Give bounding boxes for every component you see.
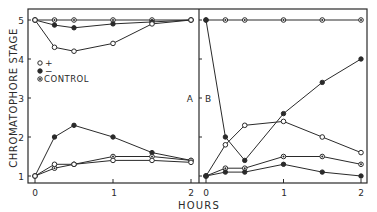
x-ticks-b: 0 1 2 (203, 188, 364, 198)
y-tick-5: 5 (18, 16, 24, 26)
filled-circle-marker-icon (223, 135, 227, 139)
open-circle-marker-icon (150, 22, 155, 27)
half-circle-dot-icon (112, 19, 114, 21)
filled-circle-marker-icon (281, 162, 285, 166)
half-circle-dot-icon (54, 167, 56, 169)
open-circle-marker-icon (223, 143, 228, 148)
legend-filled-circle-icon (38, 69, 42, 73)
y-ticks: 5 4 3 2 1 (18, 16, 24, 182)
open-circle-marker-icon (72, 49, 77, 54)
y-tick-2: 2 (18, 133, 24, 143)
half-circle-dot-icon (244, 19, 246, 21)
open-circle-marker-icon (189, 160, 194, 165)
filled-circle-marker-icon (320, 170, 324, 174)
chromatophore-stage-chart: CHROMATOPHORE STAGE 5 4 3 2 1 0 1 2 0 1 … (0, 0, 377, 212)
open-circle-marker-icon (320, 135, 325, 140)
x-tick-a-2: 2 (188, 188, 194, 198)
half-circle-dot-icon (321, 19, 323, 21)
filled-circle-marker-icon (111, 135, 115, 139)
filled-circle-marker-icon (52, 23, 56, 27)
open-circle-marker-icon (72, 162, 77, 167)
filled-circle-marker-icon (52, 135, 56, 139)
open-circle-marker-icon (111, 158, 116, 163)
filled-circle-marker-icon (243, 158, 247, 162)
legend-half-circle-dot-icon (39, 78, 41, 80)
filled-circle-marker-icon (223, 170, 227, 174)
open-circle-marker-icon (52, 45, 57, 50)
panel-label-a: A (187, 94, 194, 104)
open-circle-marker-icon (33, 174, 38, 179)
x-tick-b-0: 0 (203, 188, 209, 198)
x-tick-b-1: 1 (281, 188, 287, 198)
half-circle-dot-icon (112, 156, 114, 158)
half-circle-dot-icon (224, 19, 226, 21)
open-circle-marker-icon (150, 158, 155, 163)
half-circle-dot-icon (224, 167, 226, 169)
x-axis-label: HOURS (178, 200, 220, 211)
open-circle-marker-icon (189, 18, 194, 23)
filled-circle-marker-icon (359, 57, 363, 61)
legend-open-circle-icon (38, 61, 42, 65)
half-circle-dot-icon (151, 156, 153, 158)
open-circle-marker-icon (281, 119, 286, 124)
half-circle-dot-icon (360, 163, 362, 165)
filled-circle-marker-icon (72, 26, 76, 30)
x-ticks-a: 0 1 2 (32, 188, 194, 198)
filled-circle-marker-icon (72, 123, 76, 127)
x-tick-a-1: 1 (111, 188, 117, 198)
half-circle-dot-icon (283, 19, 285, 21)
filled-circle-marker-icon (111, 22, 115, 26)
filled-circle-marker-icon (204, 18, 208, 22)
series-line (206, 20, 361, 160)
x-tick-b-2: 2 (358, 188, 364, 198)
panel-label-b: B (205, 94, 211, 104)
y-tick-1: 1 (18, 172, 24, 182)
series-line (35, 125, 191, 176)
filled-circle-marker-icon (320, 80, 324, 84)
half-circle-dot-icon (73, 19, 75, 21)
half-circle-dot-icon (283, 156, 285, 158)
filled-circle-marker-icon (204, 174, 208, 178)
half-circle-dot-icon (360, 19, 362, 21)
filled-circle-marker-icon (281, 111, 285, 115)
half-circle-dot-icon (244, 167, 246, 169)
open-circle-marker-icon (359, 150, 364, 155)
open-circle-marker-icon (33, 18, 38, 23)
chart-svg: CHROMATOPHORE STAGE 5 4 3 2 1 0 1 2 0 1 … (0, 0, 377, 212)
y-tick-4: 4 (18, 55, 24, 65)
x-tick-a-0: 0 (32, 188, 38, 198)
half-circle-dot-icon (54, 19, 56, 21)
half-circle-dot-icon (321, 156, 323, 158)
y-tick-3: 3 (18, 94, 24, 104)
filled-circle-marker-icon (359, 174, 363, 178)
filled-circle-marker-icon (243, 170, 247, 174)
legend: + − CONTROL (38, 58, 89, 84)
open-circle-marker-icon (52, 162, 57, 167)
legend-control-label: CONTROL (44, 74, 89, 84)
open-circle-marker-icon (242, 123, 247, 128)
series-layer (33, 18, 364, 179)
open-circle-marker-icon (111, 41, 116, 46)
tick-marks (28, 20, 361, 183)
